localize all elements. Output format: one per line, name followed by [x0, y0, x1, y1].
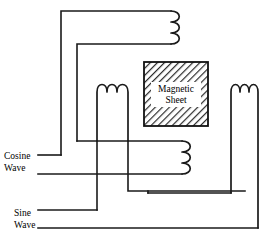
magnetic-sheet-label-line1: Magnetic — [158, 84, 194, 94]
cosine-wave-label-line2: Wave — [4, 163, 25, 173]
wire-center-right-leg — [128, 141, 245, 191]
coil-lower-center — [182, 141, 190, 174]
coil-center — [97, 85, 128, 142]
magnetic-sheet-label-line2: Sheet — [165, 95, 186, 105]
diagram-canvas: Magnetic Sheet Cosine Wave Sine Wave — [0, 0, 270, 244]
cosine-wave-label-line1: Cosine — [4, 151, 30, 161]
diagram-root: Magnetic Sheet Cosine Wave Sine Wave — [0, 0, 270, 244]
coil-right — [231, 85, 258, 229]
sine-wave-label-line2: Wave — [14, 220, 35, 230]
coil-top-right — [171, 11, 179, 44]
sine-wave-label-line1: Sine — [14, 208, 31, 218]
